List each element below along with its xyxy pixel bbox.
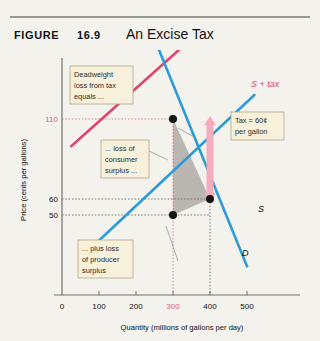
curve-label-supply-tax: S + tax [251, 79, 280, 89]
callout-tax-amount: Tax = 60¢ per gallon [231, 112, 284, 140]
callout-tax-line-1: Tax = 60¢ [235, 116, 267, 125]
callout-consumer-line-1: ... loss of [105, 144, 136, 153]
curve-label-demand: D [242, 248, 249, 258]
chart-area: 5060110 0100200300400500 S + tax S D Pri… [0, 50, 320, 341]
figure-header: FIGURE 16.9 An Excise Tax [14, 26, 314, 48]
callout-producer-line-3: surplus [82, 266, 106, 275]
y-axis-tick-labels: 5060110 [45, 115, 58, 220]
curve-label-supply: S [258, 204, 264, 214]
header-rule [10, 16, 310, 18]
x-tick-400: 400 [203, 302, 217, 311]
y-axis-title: Price (cents per gallons) [19, 139, 28, 221]
callout-producer-surplus: ... plus loss of producer surplus [78, 240, 133, 278]
x-tick-300: 300 [166, 302, 180, 311]
callout-consumer-line-3: surplus ... [105, 166, 137, 175]
x-tick-100: 100 [92, 302, 106, 311]
callout-deadweight: Deadweight loss from tax equals ... [70, 66, 133, 104]
x-tick-0: 0 [60, 302, 65, 311]
callout-deadweight-line-2: loss from tax [74, 81, 116, 90]
x-axis-tick-labels: 0100200300400500 [60, 302, 254, 311]
y-tick-50: 50 [49, 211, 58, 220]
figure-word: FIGURE [14, 29, 59, 41]
callout-tax-line-2: per gallon [235, 127, 267, 136]
tax-arrow [204, 116, 216, 202]
excise-tax-chart: 5060110 0100200300400500 S + tax S D Pri… [0, 50, 320, 341]
page-title: An Excise Tax [126, 26, 214, 42]
producer-price-point [169, 211, 177, 219]
x-axis-title: Quantity (millions of gallons per day) [121, 323, 244, 332]
callout-consumer-line-2: consumer [105, 155, 138, 164]
x-tick-500: 500 [240, 302, 254, 311]
y-tick-110: 110 [45, 115, 58, 124]
callout-consumer-surplus: ... loss of consumer surplus ... [101, 140, 149, 178]
figure-page: FIGURE 16.9 An Excise Tax [0, 0, 320, 341]
callout-producer-line-2: of producer [82, 255, 120, 264]
x-tick-200: 200 [129, 302, 143, 311]
callout-deadweight-line-3: equals ... [74, 92, 104, 101]
figure-number: 16.9 [77, 29, 101, 41]
after-tax-equilibrium [169, 115, 177, 123]
callout-producer-line-1: ... plus loss [82, 244, 119, 253]
callout-deadweight-line-1: Deadweight [74, 70, 113, 79]
pre-tax-equilibrium [206, 195, 214, 203]
y-tick-60: 60 [49, 195, 58, 204]
